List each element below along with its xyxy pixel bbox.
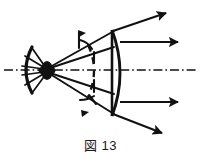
output-rays [113, 13, 178, 133]
ray-lower-outer-incident [50, 74, 114, 114]
ray-upper-inner-incident [50, 47, 114, 68]
figure-container: 図 13 [0, 0, 201, 165]
figure-caption: 図 13 [0, 138, 201, 154]
direction-arrowhead-lower-tri [81, 110, 89, 117]
ray-lower-inner-incident [50, 73, 114, 94]
plano-convex-lens [112, 30, 120, 116]
light-source [39, 61, 56, 80]
direction-arrowhead-upper [78, 30, 86, 37]
output-ray-bottom-slant [113, 114, 162, 133]
ray-upper-outer-incident [50, 31, 114, 67]
diverging-rays [50, 31, 114, 114]
output-ray-top-slant [113, 13, 166, 31]
direction-arrowhead-upper-tri [78, 30, 86, 37]
direction-arrowhead-lower [81, 110, 89, 117]
